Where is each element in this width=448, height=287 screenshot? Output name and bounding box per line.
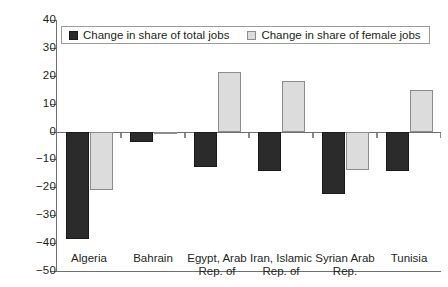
y-tick-label: 10: [12, 98, 56, 110]
y-tick-label: 40: [12, 14, 56, 26]
y-tick-label: −50: [12, 265, 56, 277]
y-tick-label: −40: [12, 237, 56, 249]
legend-swatch-total-jobs: [69, 31, 78, 40]
x-axis-category-label-line: Tunisia: [371, 252, 447, 265]
bar: [194, 132, 217, 168]
bar-chart: 403020100−10−20−30−40−50 AlgeriaBahrainE…: [0, 0, 448, 287]
legend-swatch-female-jobs: [247, 31, 256, 40]
legend-item-female-jobs: Change in share of female jobs: [247, 29, 420, 41]
bar: [90, 132, 113, 190]
y-tick-label: 0: [12, 126, 56, 138]
legend-label-total-jobs: Change in share of total jobs: [83, 29, 229, 41]
bar: [218, 72, 241, 132]
bar: [322, 132, 345, 195]
y-tick-label: 30: [12, 42, 56, 54]
y-tick-label: −10: [12, 153, 56, 165]
plot-area: [57, 20, 441, 271]
y-tick-label: 20: [12, 70, 56, 82]
chart-legend: Change in share of total jobs Change in …: [61, 26, 430, 44]
legend-label-female-jobs: Change in share of female jobs: [261, 29, 420, 41]
bar: [130, 132, 153, 143]
y-tick-label: −20: [12, 181, 56, 193]
bar: [346, 132, 369, 170]
legend-item-total-jobs: Change in share of total jobs: [69, 29, 229, 41]
bar: [282, 81, 305, 131]
bar: [386, 132, 409, 171]
bar: [66, 132, 89, 239]
bar: [154, 132, 177, 134]
x-axis-category-label: Tunisia: [371, 252, 447, 265]
y-tick-label: −30: [12, 209, 56, 221]
x-axis-category-label-line: Rep.: [307, 265, 383, 278]
bar: [258, 132, 281, 171]
bar: [410, 90, 433, 132]
